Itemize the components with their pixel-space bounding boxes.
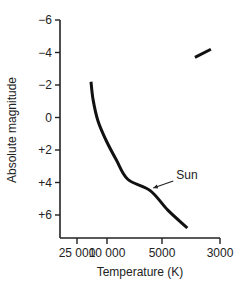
x-axis-title: Temperature (K) <box>97 265 184 279</box>
y-tick-label: +2 <box>38 143 52 157</box>
main-sequence-line <box>91 82 187 228</box>
y-tick-label: −6 <box>38 13 52 27</box>
y-tick-label: +4 <box>38 176 52 190</box>
y-tick-label: −2 <box>38 78 52 92</box>
sun-label: Sun <box>176 168 197 182</box>
sun-arrow-head <box>153 184 158 188</box>
y-ticks: −6−4−20+2+4+6 <box>38 13 60 222</box>
y-axis-title: Absolute magnitude <box>5 77 19 183</box>
axes <box>60 20 220 238</box>
annotations: Sun <box>153 168 197 189</box>
giant-branch-line <box>195 49 211 57</box>
y-tick-label: −4 <box>38 46 52 60</box>
x-tick-label: 5000 <box>149 246 176 260</box>
y-tick-label: +6 <box>38 208 52 222</box>
x-tick-label: 3000 <box>207 246 234 260</box>
x-tick-label: 10 000 <box>89 246 126 260</box>
series-layer <box>91 49 211 228</box>
y-tick-label: 0 <box>45 111 52 125</box>
x-ticks: 25 00010 00050003000 <box>59 238 234 260</box>
hr-diagram: −6−4−20+2+4+6 25 00010 00050003000 Sun T… <box>0 0 248 290</box>
